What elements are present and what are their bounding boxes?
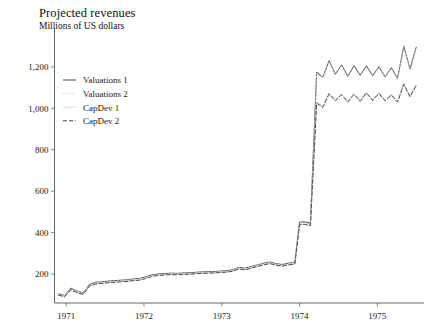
y-tick-label: 200 bbox=[35, 269, 49, 279]
x-tick-label: 1975 bbox=[368, 311, 387, 321]
x-tick-label: 1971 bbox=[57, 311, 75, 321]
x-tick-label: 1972 bbox=[135, 311, 153, 321]
legend-item-label[interactable]: CapDev 1 bbox=[83, 103, 119, 113]
y-tick-label: 400 bbox=[35, 228, 49, 238]
y-tick-label: 600 bbox=[35, 186, 49, 196]
y-tick-label: 800 bbox=[35, 145, 49, 155]
chart-legend: Valuations 1Valuations 2CapDev 1CapDev 2 bbox=[63, 75, 128, 126]
chart-plot-area: 2004006008001,0001,200 19711972197319741… bbox=[0, 0, 431, 335]
x-axis: 19711972197319741975 bbox=[55, 303, 425, 321]
legend-item-label[interactable]: CapDev 2 bbox=[83, 116, 119, 126]
y-tick-label: 1,200 bbox=[28, 62, 49, 72]
legend-item-label[interactable]: Valuations 1 bbox=[83, 75, 128, 85]
y-axis: 2004006008001,0001,200 bbox=[28, 28, 54, 303]
x-tick-label: 1973 bbox=[213, 311, 232, 321]
chart-figure: Projected revenues Millions of US dollar… bbox=[0, 0, 431, 335]
legend-item-label[interactable]: Valuations 2 bbox=[83, 89, 128, 99]
x-tick-label: 1974 bbox=[291, 311, 310, 321]
y-tick-label: 1,000 bbox=[28, 104, 49, 114]
